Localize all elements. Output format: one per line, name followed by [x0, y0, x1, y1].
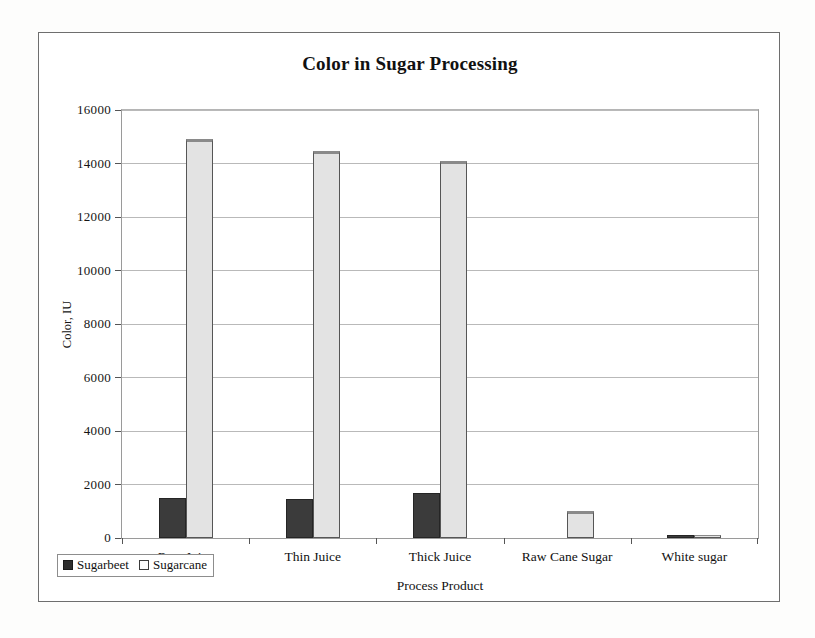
- y-axis-tick-label: 16000: [77, 102, 111, 118]
- bar-sugarcane-raw-cane-sugar: [567, 511, 594, 538]
- y-axis-tick: [115, 431, 121, 432]
- bar-sugarcane-thin-juice: [313, 151, 340, 538]
- y-axis-tick: [115, 270, 121, 271]
- x-axis-title: Process Product: [121, 578, 759, 594]
- y-axis-title: Color, IU: [59, 109, 77, 539]
- legend-swatch-icon-sugarcane: [139, 560, 149, 570]
- y-axis-tick-label: 10000: [77, 263, 111, 279]
- y-axis-tick-label: 4000: [84, 423, 111, 439]
- legend-swatch-icon-sugarbeet: [63, 560, 73, 570]
- scanned-page: Color in Sugar Processing Color, IU 0200…: [0, 0, 815, 638]
- bar-sugarcane-white-sugar: [694, 535, 721, 538]
- x-axis-tick: [122, 538, 123, 544]
- chart-title: Color in Sugar Processing: [39, 53, 781, 75]
- bar-sugarcane-thick-juice: [440, 161, 467, 538]
- y-axis-tick: [115, 538, 121, 539]
- x-axis-tick: [249, 538, 250, 544]
- y-axis-title-label: Color, IU: [61, 300, 76, 347]
- legend-label-sugarcane: Sugarcane: [153, 557, 207, 573]
- legend-item-sugarcane: Sugarcane: [139, 557, 207, 573]
- bar-group: Raw Cane Sugar: [504, 110, 631, 538]
- x-axis-tick: [757, 538, 758, 544]
- y-axis-tick-label: 8000: [84, 316, 111, 332]
- bar-group: Raw Juice: [122, 110, 249, 538]
- y-axis-tick: [115, 217, 121, 218]
- chart-legend: Sugarbeet Sugarcane: [57, 554, 214, 577]
- y-axis-tick: [115, 377, 121, 378]
- bar-group: Thick Juice: [376, 110, 503, 538]
- plot-area: 0200040006000800010000120001400016000Raw…: [121, 109, 759, 539]
- bar-group: Thin Juice: [249, 110, 376, 538]
- bar-sugarbeet-thin-juice: [286, 499, 313, 538]
- legend-label-sugarbeet: Sugarbeet: [77, 557, 129, 573]
- y-axis-tick: [115, 484, 121, 485]
- chart-frame: Color in Sugar Processing Color, IU 0200…: [38, 32, 780, 602]
- y-axis-tick: [115, 324, 121, 325]
- bar-group: White sugar: [631, 110, 758, 538]
- x-axis-category-label: White sugar: [604, 549, 784, 565]
- bar-sugarbeet-thick-juice: [413, 493, 440, 538]
- x-axis-tick: [504, 538, 505, 544]
- x-axis-tick: [631, 538, 632, 544]
- bar-sugarbeet-white-sugar: [667, 535, 694, 538]
- y-axis-tick: [115, 110, 121, 111]
- bar-sugarbeet-raw-juice: [159, 498, 186, 538]
- x-axis-tick: [376, 538, 377, 544]
- legend-item-sugarbeet: Sugarbeet: [63, 557, 129, 573]
- y-axis-tick-label: 14000: [77, 156, 111, 172]
- y-axis-tick: [115, 163, 121, 164]
- bar-sugarcane-raw-juice: [186, 139, 213, 538]
- y-axis-tick-label: 6000: [84, 370, 111, 386]
- y-axis-tick-label: 2000: [84, 477, 111, 493]
- y-axis-tick-label: 12000: [77, 209, 111, 225]
- y-axis-tick-label: 0: [104, 530, 111, 546]
